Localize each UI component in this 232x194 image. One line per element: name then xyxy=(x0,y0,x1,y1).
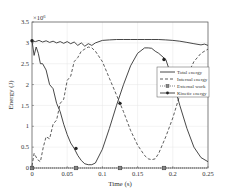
x-tick-label: 0 xyxy=(30,170,33,177)
circle-marker xyxy=(30,39,33,42)
legend-entry: Internal energy xyxy=(177,77,208,82)
x-tick-label: 0.25 xyxy=(202,170,213,177)
square-marker xyxy=(162,166,166,170)
energy-chart: 00.050.10.150.20.2500.511.522.533.5 ×106… xyxy=(0,0,232,194)
legend-entry: External work xyxy=(177,84,206,89)
circle-marker xyxy=(162,58,165,61)
circle-marker xyxy=(118,102,121,105)
y-tick-label: 1.5 xyxy=(21,102,29,109)
legend-entry: Kinetic energy xyxy=(177,91,207,96)
square-marker xyxy=(118,166,122,170)
legend: Total energyInternal energyExternal work… xyxy=(157,67,209,97)
y-tick-label: 1 xyxy=(26,122,29,129)
x-tick-label: 0.1 xyxy=(98,170,106,177)
y-tick-label: 0.5 xyxy=(21,143,29,150)
y-multiplier: ×106 xyxy=(33,14,46,22)
x-tick-label: 0.05 xyxy=(62,170,73,177)
x-tick-label: 0.15 xyxy=(132,170,143,177)
square-marker xyxy=(74,166,78,170)
x-axis-label: Time (s) xyxy=(108,180,132,188)
x-tick-label: 0.2 xyxy=(169,170,177,177)
series-lines xyxy=(30,39,208,170)
y-tick-label: 0 xyxy=(26,164,29,171)
circle-marker xyxy=(74,147,77,150)
y-tick-label: 3.5 xyxy=(21,18,29,25)
y-axis-label: Energy (J) xyxy=(7,80,15,110)
y-tick-label: 2.5 xyxy=(21,60,29,67)
y-tick-label: 3 xyxy=(26,39,29,46)
legend-entry: Total energy xyxy=(177,70,202,75)
y-tick-label: 2 xyxy=(26,81,29,88)
